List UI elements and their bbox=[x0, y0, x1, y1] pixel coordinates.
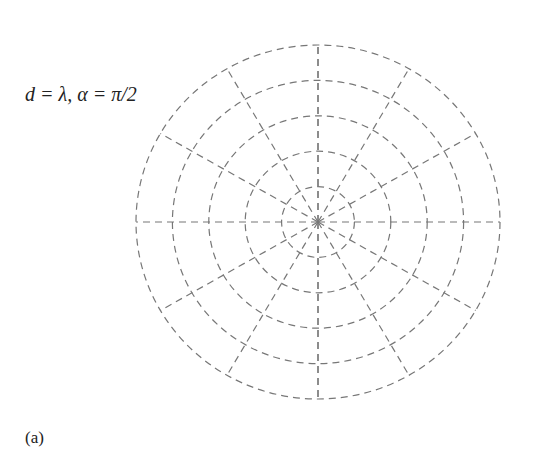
angular-spoke bbox=[318, 69, 409, 222]
figure-caption: (a) bbox=[25, 428, 44, 448]
polar-plot bbox=[0, 0, 556, 460]
parameter-annotation: d = λ, α = π/2 bbox=[25, 83, 137, 106]
angular-spoke bbox=[227, 222, 318, 375]
angular-spoke bbox=[318, 222, 476, 311]
polar-grid bbox=[136, 45, 500, 399]
angular-spoke bbox=[227, 69, 318, 222]
angular-spoke bbox=[160, 222, 318, 311]
angular-spoke bbox=[160, 134, 318, 223]
angular-spoke bbox=[318, 222, 409, 375]
angular-spoke bbox=[318, 134, 476, 223]
